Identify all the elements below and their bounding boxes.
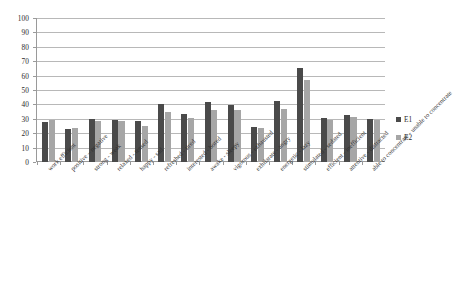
bar-e1 xyxy=(112,120,118,162)
x-axis-tick xyxy=(223,162,224,165)
legend-swatch-icon xyxy=(396,117,401,122)
bar-e1 xyxy=(367,119,373,162)
x-axis-tick xyxy=(362,162,363,165)
bar-e2 xyxy=(234,110,240,162)
y-axis: 0102030405060708090100 xyxy=(0,18,33,162)
bar-group xyxy=(181,18,194,162)
bar-e1 xyxy=(181,114,187,162)
bar-e1 xyxy=(297,68,303,162)
x-axis-tick xyxy=(60,162,61,165)
bar-e2 xyxy=(165,112,171,162)
bar-e2 xyxy=(49,120,55,162)
x-axis-tick xyxy=(339,162,340,165)
x-axis-tick xyxy=(130,162,131,165)
x-axis-tick xyxy=(153,162,154,165)
y-axis-tick-label: 60 xyxy=(22,71,30,80)
bar-e1 xyxy=(158,104,164,162)
bar-e1 xyxy=(274,101,280,162)
y-axis-tick-label: 20 xyxy=(22,129,30,138)
y-axis-tick xyxy=(33,162,36,163)
bar-group xyxy=(158,18,171,162)
x-axis-tick xyxy=(107,162,108,165)
x-axis-tick xyxy=(246,162,247,165)
bar-group xyxy=(112,18,125,162)
bar-e1 xyxy=(135,121,141,162)
bar-group xyxy=(205,18,218,162)
y-axis-tick-label: 100 xyxy=(18,14,29,23)
bar-group xyxy=(135,18,148,162)
bar-e2 xyxy=(350,117,356,162)
bar-e2 xyxy=(327,120,333,162)
bar-e1 xyxy=(89,119,95,162)
y-axis-tick-label: 40 xyxy=(22,100,30,109)
bars-layer xyxy=(37,18,385,162)
x-axis-tick xyxy=(176,162,177,165)
legend-item[interactable]: E2 xyxy=(396,128,446,146)
bar-group xyxy=(42,18,55,162)
y-axis-tick-label: 0 xyxy=(25,158,29,167)
chart-legend: E1E2 xyxy=(396,110,446,146)
x-axis-tick xyxy=(269,162,270,165)
x-axis-tick xyxy=(292,162,293,165)
legend-item[interactable]: E1 xyxy=(396,110,446,128)
bar-e2 xyxy=(258,128,264,162)
bar-e1 xyxy=(228,105,234,162)
bar-group xyxy=(321,18,334,162)
bar-e2 xyxy=(95,121,101,162)
bar-group xyxy=(297,18,310,162)
bar-e1 xyxy=(251,127,257,162)
legend-swatch-icon xyxy=(396,135,401,140)
legend-label: E1 xyxy=(404,115,412,124)
x-axis-tick xyxy=(315,162,316,165)
bar-e2 xyxy=(188,118,194,162)
bar-e2 xyxy=(281,109,287,162)
bar-e2 xyxy=(72,128,78,162)
bar-e2 xyxy=(142,126,148,162)
bar-group xyxy=(65,18,78,162)
bar-e1 xyxy=(344,115,350,162)
bar-group xyxy=(274,18,287,162)
y-axis-tick-label: 50 xyxy=(22,86,30,95)
y-axis-tick-label: 70 xyxy=(22,57,30,66)
bar-e2 xyxy=(118,121,124,162)
bar-e2 xyxy=(211,110,217,162)
bar-group xyxy=(228,18,241,162)
x-axis-tick xyxy=(83,162,84,165)
bar-e1 xyxy=(65,129,71,162)
bar-e1 xyxy=(205,102,211,162)
bar-e1 xyxy=(42,122,48,162)
legend-label: E2 xyxy=(404,133,412,142)
bar-e2 xyxy=(374,120,380,162)
y-axis-tick-label: 90 xyxy=(22,28,30,37)
bar-e1 xyxy=(321,118,327,162)
bar-e2 xyxy=(304,80,310,162)
bar-group xyxy=(251,18,264,162)
bar-group xyxy=(89,18,102,162)
y-axis-tick-label: 30 xyxy=(22,114,30,123)
y-axis-tick-label: 10 xyxy=(22,143,30,152)
bar-group xyxy=(344,18,357,162)
bar-group xyxy=(367,18,380,162)
y-axis-tick-label: 80 xyxy=(22,42,30,51)
x-axis-tick xyxy=(199,162,200,165)
x-axis-tick xyxy=(37,162,38,165)
